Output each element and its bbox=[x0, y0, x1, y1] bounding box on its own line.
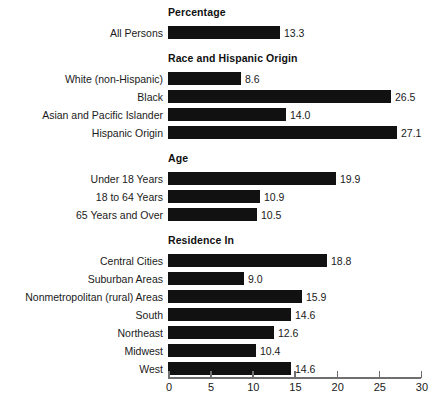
category-label: Central Cities bbox=[0, 255, 163, 267]
category-label: Nonmetropolitan (rural) Areas bbox=[0, 291, 163, 303]
bar bbox=[168, 326, 274, 339]
bar-value-label: 14.0 bbox=[290, 109, 310, 121]
category-label: Northeast bbox=[0, 327, 163, 339]
bar-chart: PercentageAll Persons13.3Race and Hispan… bbox=[0, 0, 438, 403]
x-axis-tick bbox=[421, 371, 423, 378]
x-axis-tick bbox=[337, 371, 339, 378]
x-axis-tick bbox=[168, 371, 170, 378]
x-axis-tick-label: 5 bbox=[208, 381, 214, 393]
bar-value-label: 13.3 bbox=[284, 27, 304, 39]
bar bbox=[168, 72, 241, 85]
bar-value-label: 8.6 bbox=[245, 73, 260, 85]
x-axis-tick-label: 10 bbox=[247, 381, 259, 393]
category-label: Black bbox=[0, 91, 163, 103]
x-axis-tick bbox=[294, 371, 296, 378]
bar bbox=[168, 208, 257, 221]
bar bbox=[168, 362, 291, 375]
x-axis-tick bbox=[252, 371, 254, 378]
bar bbox=[168, 344, 256, 357]
bar bbox=[168, 90, 391, 103]
category-label: Suburban Areas bbox=[0, 273, 163, 285]
bar-value-label: 15.9 bbox=[306, 291, 326, 303]
category-label: South bbox=[0, 309, 163, 321]
bar-value-label: 14.6 bbox=[295, 363, 315, 375]
bar bbox=[168, 290, 302, 303]
x-axis-tick-label: 20 bbox=[332, 381, 344, 393]
x-axis-tick-label: 15 bbox=[289, 381, 301, 393]
bar bbox=[168, 108, 286, 121]
category-label: Asian and Pacific Islander bbox=[0, 109, 163, 121]
bar-value-label: 10.9 bbox=[264, 191, 284, 203]
x-axis-tick bbox=[379, 371, 381, 378]
section-header: Race and Hispanic Origin bbox=[168, 52, 298, 64]
bar bbox=[168, 272, 244, 285]
category-label: Hispanic Origin bbox=[0, 127, 163, 139]
bar-value-label: 10.4 bbox=[260, 345, 280, 357]
x-axis-tick-label: 25 bbox=[374, 381, 386, 393]
category-label: 18 to 64 Years bbox=[0, 191, 163, 203]
bar bbox=[168, 190, 260, 203]
bar bbox=[168, 26, 280, 39]
bar-value-label: 18.8 bbox=[331, 255, 351, 267]
category-label: West bbox=[0, 363, 163, 375]
bar bbox=[168, 254, 327, 267]
bar-value-label: 27.1 bbox=[401, 127, 421, 139]
bar bbox=[168, 126, 397, 139]
bar-value-label: 9.0 bbox=[248, 273, 263, 285]
bar-value-label: 10.5 bbox=[261, 209, 281, 221]
bar-value-label: 19.9 bbox=[340, 173, 360, 185]
section-header: Percentage bbox=[168, 6, 226, 18]
section-header: Residence In bbox=[168, 234, 234, 246]
category-label: Under 18 Years bbox=[0, 173, 163, 185]
category-label: Midwest bbox=[0, 345, 163, 357]
category-label: All Persons bbox=[0, 27, 163, 39]
section-header: Age bbox=[168, 152, 188, 164]
bar-value-label: 14.6 bbox=[295, 309, 315, 321]
bar-value-label: 12.6 bbox=[278, 327, 298, 339]
x-axis-tick-label: 30 bbox=[416, 381, 428, 393]
bar bbox=[168, 308, 291, 321]
bar bbox=[168, 172, 336, 185]
category-label: 65 Years and Over bbox=[0, 209, 163, 221]
x-axis-tick bbox=[210, 371, 212, 378]
category-label: White (non-Hispanic) bbox=[0, 73, 163, 85]
bar-value-label: 26.5 bbox=[395, 91, 415, 103]
x-axis-tick-label: 0 bbox=[166, 381, 172, 393]
